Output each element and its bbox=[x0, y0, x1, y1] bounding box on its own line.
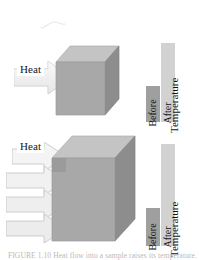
figure-caption: FIGURE 1.10 Heat flow into a sample rais… bbox=[8, 251, 198, 260]
large-cube bbox=[52, 136, 136, 244]
panel-single-heat: Heat Before After Temperature bbox=[0, 0, 199, 128]
bar-before-label-bottom-bar: Before bbox=[146, 208, 160, 246]
panel-multi-heat: Heat Before After Temperature bbox=[0, 128, 199, 248]
chart-top: Before After Temperature bbox=[146, 18, 190, 122]
chart-bottom: Before After Temperature bbox=[146, 136, 190, 246]
bar-before-top: Before bbox=[146, 86, 160, 122]
small-cube bbox=[56, 46, 120, 120]
heat-label-bottom: Heat bbox=[17, 140, 44, 153]
axis-label-temperature-top: Temperature bbox=[169, 78, 180, 133]
heat-label-top: Heat bbox=[17, 63, 44, 76]
figure-container: Heat Before After Temperature bbox=[0, 0, 199, 260]
bar-before-label-bottom: Before bbox=[148, 223, 158, 250]
bar-before-label-top: Before bbox=[148, 99, 158, 126]
axis-label-temperature-bottom: Temperature bbox=[169, 202, 180, 257]
